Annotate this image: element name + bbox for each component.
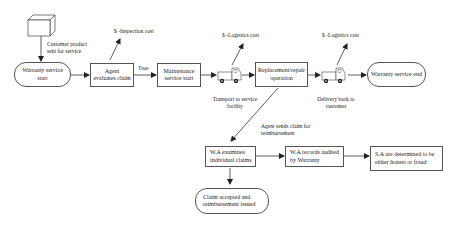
delivery-label: Delivery back to customer [314,96,358,110]
cube-icon [28,15,55,36]
customer-product-label: Customer product sent for service [47,41,91,55]
maintenance-service-start-node: Maintenance service start [157,63,201,87]
truck-icon [322,68,345,83]
logistics-cost-label-2: $ -Logistics cost [322,32,359,39]
inspection-cost-label: $ -Inspection cost [114,28,154,35]
wa-records-audited-node: W.A records audited by Warranty [285,146,344,167]
logistics-cost-label-1: $ -Logistics cost [222,32,259,39]
true-label: True [138,65,148,72]
flowchart-canvas: Customer product sent for service $ -Ins… [0,0,454,226]
claim-accepted-node: Claim accepted and reimbursement issued [195,188,269,214]
warranty-service-start-node: Warranty service start [14,62,71,87]
truck-icon [218,68,241,83]
warranty-service-end-node: Warranty service end [367,62,426,87]
wa-examines-claims-node: W.A examines individual claims [205,146,256,167]
sa-determined-node: S.A are determined to be either honest o… [370,146,443,171]
transport-label: Transport to service facility [212,96,258,110]
replacement-repair-operation-node: Replacement/repair operation [255,62,308,87]
agent-sends-claim-label: Agent sends claim for reimbursement [261,123,311,137]
agent-evaluates-claim-node: Agent evaluates claim [90,63,134,87]
